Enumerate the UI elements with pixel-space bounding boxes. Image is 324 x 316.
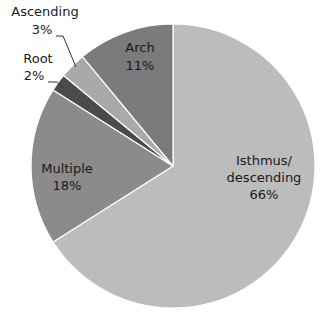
label-ascending-pct: 3% xyxy=(32,22,53,37)
label-multiple: Multiple xyxy=(41,161,93,176)
label-isthmus-line1: Isthmus/ xyxy=(236,153,293,168)
leader-line-ascending xyxy=(56,36,76,67)
label-arch-pct: 11% xyxy=(126,58,155,73)
label-ascending: Ascending xyxy=(11,4,78,19)
pie-chart: Isthmus/ descending 66% Multiple 18% Roo… xyxy=(0,0,324,316)
label-root: Root xyxy=(23,51,52,66)
label-root-pct: 2% xyxy=(24,68,45,83)
label-arch: Arch xyxy=(125,40,154,55)
label-isthmus-pct: 66% xyxy=(250,187,279,202)
label-multiple-pct: 18% xyxy=(53,178,82,193)
label-isthmus-line2: descending xyxy=(227,170,302,185)
